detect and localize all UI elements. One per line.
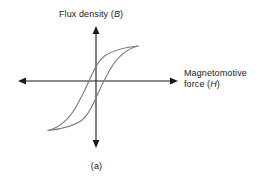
x-axis-symbol: H: [210, 79, 217, 89]
x-axis-label-line2-suffix: ): [217, 79, 220, 89]
x-axis-left-arrowhead-icon: [18, 78, 26, 85]
x-axis-label-line1: Magnetomotive: [184, 68, 247, 78]
x-axis: [18, 78, 178, 85]
y-axis-label: Flux density (B): [59, 9, 123, 20]
hysteresis-figure: Flux density (B) Magnetomotiveforce (H) …: [0, 0, 266, 186]
y-axis: [93, 26, 100, 148]
x-axis-label: Magnetomotiveforce (H): [184, 68, 247, 89]
y-axis-bottom-arrowhead-icon: [93, 140, 100, 148]
x-axis-label-line2: force (H): [184, 79, 247, 90]
hysteresis-plot: [0, 0, 266, 186]
x-axis-label-line2-prefix: force (: [184, 79, 210, 89]
y-axis-top-arrowhead-icon: [93, 26, 100, 34]
upper-branch-path: [48, 46, 138, 131]
y-axis-label-suffix: ): [120, 9, 123, 19]
y-axis-label-prefix: Flux density (: [59, 9, 114, 19]
figure-caption: (a): [0, 161, 193, 172]
hysteresis-loop-curve: [48, 46, 138, 131]
lower-branch-path: [48, 46, 138, 131]
x-axis-right-arrowhead-icon: [170, 78, 178, 85]
